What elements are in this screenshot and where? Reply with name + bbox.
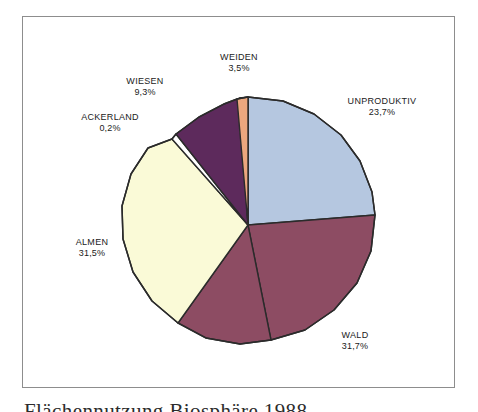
slice-label-unproduktiv-name: UNPRODUKTIV [329, 96, 435, 107]
slice-label-unproduktiv-value: 23,7% [329, 107, 435, 118]
slice-label-ackerland-name: ACKERLAND [60, 112, 160, 123]
slice-label-almen: ALMEN 31,5% [56, 237, 128, 259]
slice-label-weiden: WEIDEN 3,5% [196, 52, 282, 74]
slice-label-ackerland-value: 0,2% [60, 123, 160, 134]
slice-label-weiden-name: WEIDEN [196, 52, 282, 63]
slice-label-wiesen-value: 9,3% [107, 87, 183, 98]
slice-label-ackerland: ACKERLAND 0,2% [60, 112, 160, 134]
slice-label-wald-name: WALD [320, 330, 390, 341]
slice-label-wald: WALD 31,7% [320, 330, 390, 352]
slice-label-almen-value: 31,5% [56, 248, 128, 259]
slice-label-almen-name: ALMEN [56, 237, 128, 248]
slice-label-weiden-value: 3,5% [196, 63, 282, 74]
slice-label-wiesen: WIESEN 9,3% [107, 76, 183, 98]
figure-root: WEIDEN 3,5% WIESEN 9,3% ACKERLAND 0,2% A… [0, 0, 478, 412]
slice-label-wald-value: 31,7% [320, 341, 390, 352]
slice-label-unproduktiv: UNPRODUKTIV 23,7% [329, 96, 435, 118]
slice-label-wiesen-name: WIESEN [107, 76, 183, 87]
figure-caption: Flächennutzung Biosphäre 1988 [24, 399, 464, 412]
